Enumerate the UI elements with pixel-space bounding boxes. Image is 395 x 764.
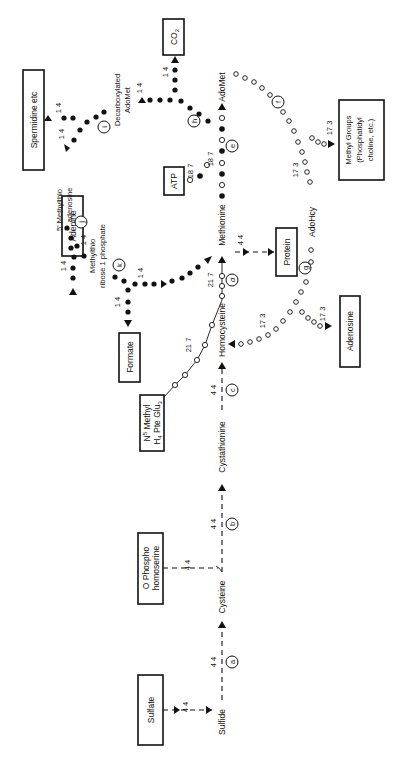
svg-text:Formate: Formate xyxy=(125,341,135,373)
transsulfuration-pathway: 4 4 Sulfide 4 4 a Cysteine 4 4 4 4 b Cys… xyxy=(163,303,238,735)
enzyme-g: g xyxy=(301,266,310,270)
svg-text:4 4: 4 4 xyxy=(183,560,192,570)
protein-box: Protein xyxy=(276,228,297,276)
enzyme-k: k xyxy=(115,263,124,267)
svg-text:Adenosine: Adenosine xyxy=(345,311,355,351)
svg-text:21 7: 21 7 xyxy=(184,338,193,353)
formate-box: Formate xyxy=(119,333,140,382)
svg-text:ribose 1 phosphate: ribose 1 phosphate xyxy=(98,224,107,288)
n5-methyl-h4ptegle-box: N5 Methyl H4 Pte Glu3 xyxy=(140,395,164,451)
svg-text:4 4: 4 4 xyxy=(209,657,218,667)
metabolite-decarboxylated-adomet: Decarboxylated xyxy=(113,74,122,126)
adomet-synthesis: 18 7 18 7 e AdoMet xyxy=(186,72,238,199)
svg-text:18 7: 18 7 xyxy=(206,152,215,167)
svg-text:(Phosphatidyl: (Phosphatidyl xyxy=(355,117,364,163)
svg-text:Spermidine etc: Spermidine etc xyxy=(29,91,39,148)
methyltransfer-arc: f 17 3 17 3 AdoHcy g 17 3 17 3 xyxy=(228,72,335,348)
svg-text:1 4: 1 4 xyxy=(59,261,68,271)
atp-box: ATP xyxy=(164,167,184,195)
svg-text:Sulfate: Sulfate xyxy=(146,696,156,723)
svg-text:1 4: 1 4 xyxy=(113,297,122,307)
metabolite-adohcy: AdoHcy xyxy=(307,206,317,237)
svg-text:17 3: 17 3 xyxy=(318,307,327,322)
svg-text:1 4: 1 4 xyxy=(136,268,145,278)
svg-text:17 3: 17 3 xyxy=(258,314,267,329)
svg-text:4 4: 4 4 xyxy=(209,519,218,529)
o-phosphohomoserine-box: O Phospho homoserine xyxy=(138,533,163,604)
sulfate-box: Sulfate xyxy=(138,675,163,745)
enzyme-c: c xyxy=(228,388,237,392)
enzyme-h: h xyxy=(190,119,199,123)
svg-text:N5 Methyl: N5 Methyl xyxy=(142,404,152,441)
enzyme-b: b xyxy=(228,522,237,526)
adenosine-box: Adenosine xyxy=(340,296,360,367)
svg-text:1 4: 1 4 xyxy=(54,103,63,113)
methyl-groups-box: Methyl Groups (Phosphatidyl choline, etc… xyxy=(339,100,384,180)
svg-text:17 3: 17 3 xyxy=(325,121,334,136)
svg-text:Protein: Protein xyxy=(282,238,292,265)
svg-text:1 4: 1 4 xyxy=(79,235,88,245)
metabolite-adomet: AdoMet xyxy=(217,72,227,102)
svg-text:O Phospho: O Phospho xyxy=(141,546,151,589)
svg-text:ATP: ATP xyxy=(169,173,179,189)
metabolite-cysteine: Cysteine xyxy=(217,580,227,613)
metabolite-mta: 5' Methylthio xyxy=(55,189,64,231)
spermidine-box: Spermidine etc xyxy=(23,70,44,170)
svg-text:1 4: 1 4 xyxy=(135,83,144,93)
svg-text:1 4: 1 4 xyxy=(57,129,66,139)
methionine-metabolism-diagram: Sulfate O Phospho homoserine N5 Methyl H… xyxy=(0,0,395,764)
svg-text:4 4: 4 4 xyxy=(181,702,190,712)
svg-text:homoserine: homoserine xyxy=(151,546,161,591)
metabolite-homocysteine: Homocysteine xyxy=(217,303,227,357)
svg-text:1 4: 1 4 xyxy=(161,67,170,77)
svg-text:4 4: 4 4 xyxy=(236,235,245,245)
metabolite-mtr1p: Methylthio xyxy=(88,239,97,273)
svg-text:AdoMet: AdoMet xyxy=(123,86,132,113)
enzyme-e: e xyxy=(228,144,237,148)
metabolite-cystathionine: Cystathionine xyxy=(217,421,227,473)
metabolite-sulfide: Sulfide xyxy=(217,709,227,735)
svg-text:adenosine: adenosine xyxy=(65,188,74,223)
svg-text:choline, etc.): choline, etc.) xyxy=(366,118,375,161)
co2-box: CO2 xyxy=(163,19,184,55)
polyamine-pathway: h 1 4 1 4 Decarboxylated AdoMet i 1 4 1 … xyxy=(44,56,212,327)
enzyme-j: j xyxy=(77,221,86,224)
svg-text:4 4: 4 4 xyxy=(209,385,218,395)
svg-text:21 7: 21 7 xyxy=(206,273,215,288)
svg-text:18 7: 18 7 xyxy=(186,164,195,179)
svg-text:17 3: 17 3 xyxy=(291,163,300,178)
metabolite-methionine: Methionine xyxy=(217,204,227,246)
svg-text:Methyl Groups: Methyl Groups xyxy=(344,115,353,164)
